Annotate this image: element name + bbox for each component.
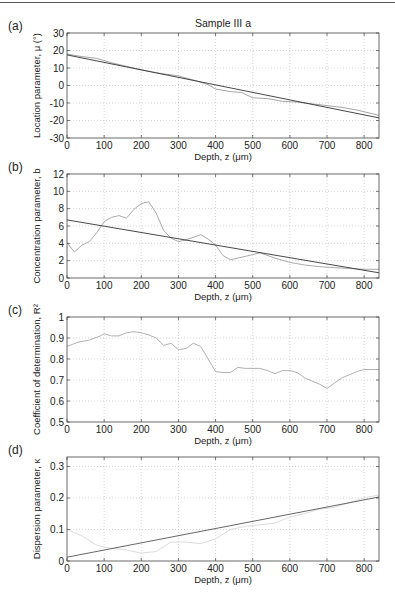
y-axis-label: Coefficient of determination, R² [31,304,42,435]
x-tick-label: 500 [244,140,261,151]
x-tick-label: 200 [133,563,150,574]
x-tick-label: 800 [356,424,373,435]
axes-frame [67,457,379,561]
y-tick-label: 12 [53,169,65,180]
chart-title: Sample III a [195,17,251,29]
y-tick-label: 20 [53,45,65,56]
axes-frame [67,317,379,422]
x-tick-label: 700 [319,563,336,574]
y-tick-label: 0 [58,80,64,91]
x-tick-label: 500 [244,563,261,574]
y-axis-label: Dispersion parameter, κ [31,459,42,560]
x-tick-label: 600 [282,563,299,574]
x-tick-label: 300 [170,280,187,291]
x-tick-label: 500 [244,424,261,435]
y-tick-label: 0.8 [50,354,64,365]
y-tick-label: -20 [50,115,65,126]
series-measured [67,202,379,270]
series-linear-fit [67,220,379,273]
x-tick-label: 200 [133,140,150,151]
panel-label: (d) [8,443,23,457]
y-tick-label: 0.6 [50,396,64,407]
figure: 0100200300400500600700800-30-20-10010203… [0,0,395,607]
y-tick-label: 0.2 [50,492,64,503]
panel-label: (c) [8,303,22,317]
y-tick-label: 0.1 [50,524,64,535]
y-tick-label: 0 [58,273,64,284]
y-tick-label: 0.3 [50,461,64,472]
x-tick-label: 600 [282,280,299,291]
x-tick-label: 200 [133,280,150,291]
x-tick-label: 0 [64,140,70,151]
x-tick-label: 800 [356,563,373,574]
chart-panel-b: 0100200300400500600700800024681012Depth,… [8,160,379,302]
x-tick-label: 800 [356,140,373,151]
x-axis-label: Depth, z (μm) [194,574,252,585]
y-tick-label: 0 [58,556,64,567]
x-tick-label: 600 [282,140,299,151]
x-axis-label: Depth, z (μm) [194,151,252,162]
y-axis-label: Location parameter, μ (°) [31,33,42,138]
x-tick-label: 400 [207,280,224,291]
x-tick-label: 0 [64,563,70,574]
x-tick-label: 700 [319,424,336,435]
x-tick-label: 500 [244,280,261,291]
x-tick-label: 100 [96,280,113,291]
y-tick-label: 30 [53,28,65,39]
x-axis-label: Depth, z (μm) [194,435,252,446]
x-tick-label: 800 [356,280,373,291]
x-tick-label: 300 [170,424,187,435]
series-measured [67,495,379,553]
chart-panel-a: 0100200300400500600700800-30-20-10010203… [8,17,379,162]
x-tick-label: 400 [207,140,224,151]
x-tick-label: 300 [170,140,187,151]
x-tick-label: 100 [96,424,113,435]
x-tick-label: 0 [64,424,70,435]
y-tick-label: 6 [58,221,64,232]
panel-label: (a) [8,19,23,33]
x-tick-label: 300 [170,563,187,574]
x-tick-label: 400 [207,563,224,574]
y-tick-label: 0.9 [50,333,64,344]
panel-label: (b) [8,160,23,174]
x-tick-label: 200 [133,424,150,435]
y-tick-label: 10 [53,186,65,197]
x-axis-label: Depth, z (μm) [194,291,252,302]
chart-panel-d: 010020030040050060070080000.10.20.3Depth… [8,443,379,585]
series-linear-fit [67,55,379,118]
y-tick-label: 2 [58,255,64,266]
y-tick-label: 4 [58,238,64,249]
y-tick-label: 10 [53,63,65,74]
x-tick-label: 0 [64,280,70,291]
series-measured [67,54,379,115]
y-tick-label: 1 [58,312,64,323]
x-tick-label: 700 [319,280,336,291]
y-tick-label: -10 [50,98,65,109]
y-tick-label: 8 [58,203,64,214]
y-axis-label: Concentration parameter, b [31,168,42,283]
y-tick-label: 0.5 [50,417,64,428]
x-tick-label: 400 [207,424,224,435]
x-tick-label: 100 [96,140,113,151]
y-tick-label: 0.7 [50,375,64,386]
y-tick-label: -30 [50,133,65,144]
x-tick-label: 100 [96,563,113,574]
chart-panel-c: 01002003004005006007008000.50.60.70.80.9… [8,303,379,446]
x-tick-label: 700 [319,140,336,151]
series-linear-fit [67,497,379,557]
x-tick-label: 600 [282,424,299,435]
